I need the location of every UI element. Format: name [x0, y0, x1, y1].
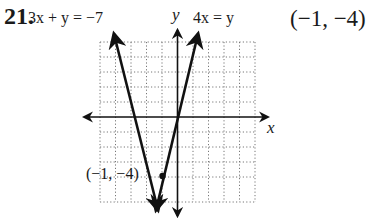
x-axis-label: x: [267, 118, 275, 138]
y-axis-label: y: [172, 5, 180, 25]
coordinate-graph: [0, 0, 392, 219]
line-3x-plus-y-eq-neg7: [114, 34, 158, 210]
intersection-point: [159, 173, 165, 179]
intersection-label: (−1, −4): [86, 165, 139, 183]
